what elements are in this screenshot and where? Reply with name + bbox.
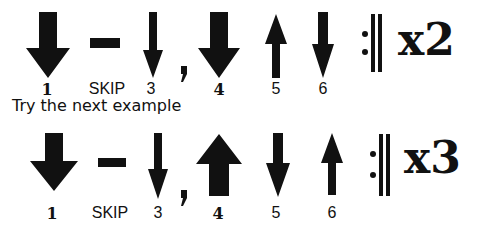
- down-arrow-thick-icon: [26, 12, 70, 78]
- down-arrow-thin-icon: [148, 133, 168, 199]
- beat-label-5: 5: [256, 204, 296, 222]
- repeat-multiplier: x2: [398, 18, 455, 62]
- up-arrow-thin-icon: [265, 14, 287, 78]
- down-arrow-thin-icon: [312, 12, 334, 78]
- repeat-multiplier: x3: [404, 136, 461, 180]
- beat-label-6: 6: [312, 204, 352, 222]
- beat-label-skip: SKIP: [85, 204, 135, 222]
- beat-label-6: 6: [303, 80, 343, 98]
- beat-label-4: 4: [198, 204, 238, 223]
- down-arrow-thin-icon: [266, 133, 290, 197]
- beat-label-3: 3: [138, 204, 178, 222]
- repeat-end-icon: [370, 134, 392, 196]
- beat-label-5: 5: [256, 80, 296, 98]
- beat-label-4: 4: [199, 80, 239, 99]
- down-arrow-thick-icon: [198, 12, 240, 78]
- skip-dash-icon: [90, 38, 120, 48]
- down-arrow-thick-icon: [30, 133, 78, 191]
- beat-label-1: 1: [32, 204, 72, 223]
- down-arrow-thin-icon: [143, 12, 163, 78]
- comma-separator: [180, 190, 188, 206]
- caption: Try the next example: [12, 96, 181, 115]
- skip-dash-icon: [98, 158, 126, 167]
- up-arrow-thick-icon: [196, 134, 242, 196]
- repeat-end-icon: [362, 14, 384, 72]
- up-arrow-thin-icon: [321, 133, 343, 195]
- comma-separator: [180, 66, 188, 82]
